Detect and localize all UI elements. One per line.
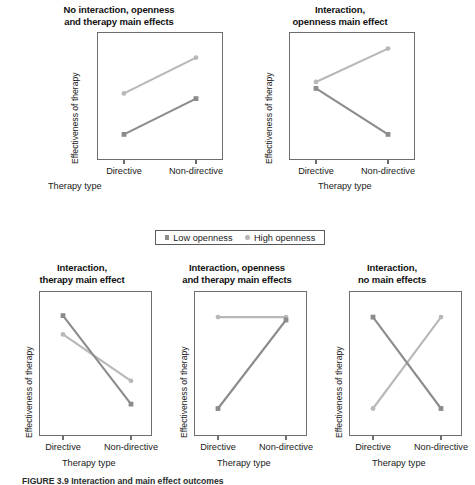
circle-marker-icon (194, 55, 199, 60)
square-marker-icon (314, 86, 319, 91)
panel-4-low-openness-line (218, 320, 286, 409)
panel-3-tick-label-nondirective: Non-directive (104, 442, 158, 452)
panel-4-x-axis-label: Therapy type (157, 458, 317, 468)
circle-marker-icon (129, 378, 134, 383)
panel-2-x-axis-label: Therapy type (240, 181, 462, 191)
square-marker-icon (371, 315, 376, 320)
panel-5-tick-label-nondirective: Non-directive (414, 442, 468, 452)
panel-1-tick-label-directive: Directive (106, 166, 142, 176)
panel-1-x-axis-label: Therapy type (48, 181, 270, 191)
square-marker-icon (129, 402, 134, 407)
legend-item-low-openness: Low openness (165, 233, 233, 243)
panel-3-high-openness-line (63, 334, 131, 380)
circle-marker-icon (61, 332, 66, 337)
circle-marker-icon (371, 406, 376, 411)
panel-2-series-layer (240, 4, 462, 204)
square-marker-icon (194, 96, 199, 101)
chart-panel-3: Interaction, therapy main effect Effecti… (2, 262, 162, 477)
panel-3-tick-directive (62, 436, 63, 440)
panel-1-high-openness-line (124, 58, 196, 94)
panel-3-tick-nondirective (130, 436, 131, 440)
panel-2-low-openness-line (316, 88, 388, 134)
panel-4-tick-nondirective (285, 436, 286, 440)
panel-1-tick-directive (123, 160, 124, 164)
panel-1-tick-nondirective (195, 160, 196, 164)
panel-3-tick-label-directive: Directive (45, 442, 81, 452)
panel-4-tick-label-directive: Directive (200, 442, 236, 452)
legend-label-high-openness: High openness (254, 233, 315, 243)
square-marker-icon (386, 132, 391, 137)
square-marker-icon (61, 313, 66, 318)
panel-1-tick-label-nondirective: Non-directive (169, 166, 223, 176)
panel-2-tick-nondirective (387, 160, 388, 164)
square-marker-icon (165, 235, 170, 240)
panel-5-tick-nondirective (440, 436, 441, 440)
circle-marker-icon (245, 235, 250, 240)
circle-marker-icon (386, 46, 391, 51)
chart-legend: Low openness High openness (155, 230, 325, 245)
panel-3-low-openness-line (63, 316, 131, 405)
circle-marker-icon (314, 80, 319, 85)
panel-5-tick-directive (372, 436, 373, 440)
square-marker-icon (439, 406, 444, 411)
chart-panel-5: Interaction, no main effects Effectivene… (312, 262, 472, 477)
panel-1-low-openness-line (124, 99, 196, 135)
chart-panel-2: Interaction, openness main effect Effect… (240, 4, 462, 204)
legend-label-low-openness: Low openness (173, 233, 232, 243)
panel-5-tick-label-directive: Directive (355, 442, 391, 452)
panel-4-tick-directive (217, 436, 218, 440)
panel-4-tick-label-nondirective: Non-directive (259, 442, 313, 452)
panel-2-tick-label-directive: Directive (298, 166, 334, 176)
panel-3-x-axis-label: Therapy type (2, 458, 162, 468)
legend-item-high-openness: High openness (245, 233, 315, 243)
panel-2-tick-directive (315, 160, 316, 164)
figure-caption: FIGURE 3.9 Interaction and main effect o… (22, 476, 462, 485)
square-marker-icon (284, 318, 289, 323)
square-marker-icon (122, 132, 127, 137)
chart-panel-1: No interaction, openness and therapy mai… (8, 4, 230, 204)
panel-2-tick-label-nondirective: Non-directive (361, 166, 415, 176)
circle-marker-icon (122, 91, 127, 96)
panel-2-high-openness-line (316, 49, 388, 82)
circle-marker-icon (439, 315, 444, 320)
circle-marker-icon (216, 315, 221, 320)
square-marker-icon (216, 406, 221, 411)
chart-panel-4: Interaction, openness and therapy main e… (157, 262, 317, 477)
panel-5-x-axis-label: Therapy type (312, 458, 472, 468)
